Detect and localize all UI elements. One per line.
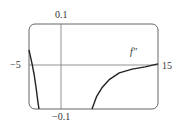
curve-label: f″ [130, 47, 137, 57]
y-min-tick-label: −0.1 [52, 112, 70, 122]
x-max-tick-label: 15 [162, 61, 172, 71]
plot-frame [29, 24, 158, 109]
curve-branch [92, 64, 158, 109]
plot-canvas [0, 0, 178, 124]
curve-f-double-prime [29, 50, 158, 109]
y-max-tick-label: 0.1 [55, 10, 68, 20]
curve-branch [29, 50, 39, 109]
x-min-tick-label: −5 [10, 60, 21, 70]
